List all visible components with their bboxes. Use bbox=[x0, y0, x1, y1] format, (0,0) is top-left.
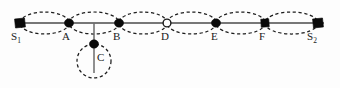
node-marker-s2[interactable] bbox=[313, 18, 324, 28]
node-marker-d[interactable] bbox=[163, 19, 171, 27]
node-marker-f[interactable] bbox=[261, 19, 270, 28]
node-marker-e[interactable] bbox=[211, 19, 220, 27]
branch-to-c bbox=[77, 23, 111, 78]
point-label-s1: S1 bbox=[11, 31, 21, 42]
node-marker-c[interactable] bbox=[89, 40, 98, 48]
point-label-s1-sub: 1 bbox=[17, 36, 21, 45]
point-label-b: B bbox=[113, 31, 120, 42]
standing-wave-figure: S1 A B D E F S2 C bbox=[0, 0, 340, 88]
figure-canvas bbox=[0, 0, 340, 88]
point-label-c: C bbox=[97, 52, 104, 63]
point-label-d: D bbox=[161, 31, 169, 42]
point-label-s2: S2 bbox=[307, 31, 317, 42]
node-marker-b[interactable] bbox=[114, 19, 123, 27]
point-label-a: A bbox=[62, 31, 70, 42]
point-label-e: E bbox=[211, 31, 218, 42]
point-label-f: F bbox=[259, 31, 265, 42]
node-marker-s1[interactable] bbox=[15, 18, 26, 28]
point-label-s2-sub: 2 bbox=[313, 36, 317, 45]
node-marker-a[interactable] bbox=[64, 19, 73, 27]
